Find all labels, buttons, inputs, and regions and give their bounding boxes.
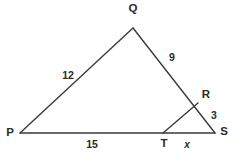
length-TS: x [184,140,190,150]
geometry-canvas [0,0,235,157]
segment-RT [163,103,198,133]
segment-QS [133,28,215,133]
vertex-label-r: R [202,89,210,101]
vertex-label-q: Q [129,3,138,15]
segments-group [20,28,215,133]
geometry-figure: PQRST129315x [0,0,235,157]
length-PQ: 12 [62,70,74,81]
vertex-label-p: P [6,127,14,139]
length-QR: 9 [169,52,175,63]
length-RS: 3 [211,110,217,121]
vertex-label-s: S [220,126,228,138]
length-PT: 15 [86,139,98,150]
segment-PQ [20,28,133,133]
vertex-label-t: T [160,138,167,150]
